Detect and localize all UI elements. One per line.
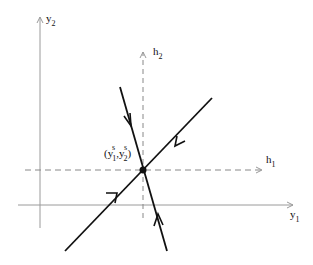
- equilibrium-point: [140, 167, 147, 174]
- arrow-upper-diag-icon: [175, 136, 185, 146]
- y2-label: y2: [46, 12, 56, 28]
- h1-label: h1: [266, 153, 276, 169]
- equilibrium-sup1: s: [112, 143, 115, 152]
- equilibrium-label: (y1,y2): [104, 147, 131, 163]
- saddle-diagram: y2 y1 h2 h1 (y1,y2) s s: [0, 0, 313, 265]
- h2-label: h2: [153, 45, 163, 61]
- diagonal-trajectory: [65, 98, 212, 251]
- equilibrium-sup2: s: [124, 143, 127, 152]
- y1-label: y1: [290, 208, 300, 224]
